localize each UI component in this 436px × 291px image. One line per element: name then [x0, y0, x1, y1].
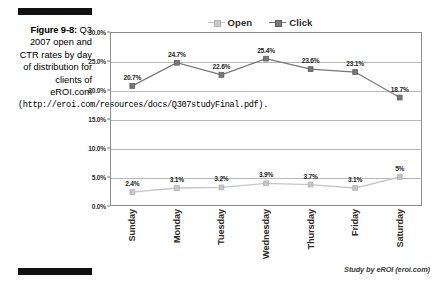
data-point-label: 2.4%	[125, 180, 139, 187]
data-point-marker	[130, 84, 135, 89]
data-point-label: 3.7%	[303, 173, 317, 180]
x-axis: SundayMondayTuesdayWednesdayThursdayFrid…	[110, 209, 422, 271]
data-point-marker	[174, 60, 179, 65]
data-point-marker	[219, 73, 224, 78]
legend-item-open: Open	[208, 17, 253, 28]
data-point-label: 3.1%	[170, 176, 184, 183]
x-tick-label-friday: Friday	[350, 209, 360, 236]
y-tick-label: 25.0%	[88, 58, 106, 65]
data-point-label: 22.6%	[213, 63, 231, 70]
data-point-marker	[219, 185, 224, 190]
data-point-marker	[308, 67, 313, 72]
figure-caption-block: Figure 9-8: Q3 2007 open and CTR rates b…	[18, 8, 92, 283]
y-tick-label: 20.0%	[88, 87, 106, 94]
source-note: Study by eROI (eroi.com)	[344, 265, 430, 274]
y-axis: 0.0%5.0%10.0%15.0%20.0%25.0%30.0%	[88, 32, 110, 206]
x-tick-label-sunday: Sunday	[127, 209, 137, 242]
data-point-label: 20.7%	[123, 74, 141, 81]
data-point-label: 24.7%	[168, 51, 186, 58]
figure-label: Figure 9-8:	[31, 25, 77, 35]
data-point-marker	[353, 70, 358, 75]
x-tick-label-thursday: Thursday	[306, 209, 316, 250]
data-point-marker	[353, 186, 358, 191]
legend-item-click: Click	[269, 17, 312, 28]
data-point-marker	[308, 182, 313, 187]
y-tick-label: 15.0%	[88, 116, 106, 123]
legend-label-open: Open	[228, 17, 253, 28]
data-point-label: 3.2%	[214, 175, 228, 182]
legend-label-click: Click	[289, 17, 312, 28]
x-tick-label-saturday: Saturday	[395, 209, 405, 248]
series-lines	[110, 32, 422, 206]
data-point-label: 23.1%	[346, 60, 364, 67]
y-tick-label: 5.0%	[92, 174, 106, 181]
caption-text: Figure 9-8: Q3 2007 open and CTR rates b…	[18, 24, 92, 112]
data-point-label: 18.7%	[391, 86, 409, 93]
data-point-marker	[397, 95, 402, 100]
data-point-marker	[264, 181, 269, 186]
caption-rule-bottom	[18, 268, 92, 275]
chart-legend: Open Click	[88, 14, 432, 30]
x-tick-label-wednesday: Wednesday	[261, 209, 271, 259]
data-point-marker	[130, 190, 135, 195]
x-tick-label-tuesday: Tuesday	[216, 209, 226, 245]
data-point-marker	[264, 56, 269, 61]
y-tick-label: 30.0%	[88, 29, 106, 36]
caption-description: Q3 2007 open and CTR rates by day of dis…	[20, 25, 92, 97]
y-tick-label: 10.0%	[88, 145, 106, 152]
data-layer: 20.7%24.7%22.6%25.4%23.6%23.1%18.7%2.4%3…	[110, 32, 422, 206]
data-point-label: 5%	[395, 165, 404, 172]
data-point-marker	[397, 175, 402, 180]
data-point-label: 3.9%	[259, 171, 273, 178]
chart-container: Open Click 0.0%5.0%10.0%15.0%20.0%25.0%3…	[88, 14, 432, 282]
data-point-marker	[174, 186, 179, 191]
data-point-label: 23.6%	[302, 57, 320, 64]
data-point-label: 3.1%	[348, 176, 362, 183]
caption-rule-top	[18, 8, 92, 15]
data-point-label: 25.4%	[257, 47, 275, 54]
x-tick-label-monday: Monday	[172, 209, 182, 243]
legend-marker-open-icon	[208, 19, 225, 26]
legend-marker-click-icon	[269, 19, 286, 26]
y-tick-label: 0.0%	[92, 203, 106, 210]
